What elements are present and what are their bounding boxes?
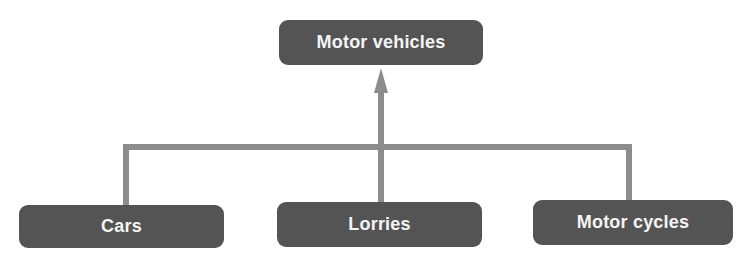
node-cars: Cars — [19, 205, 224, 248]
node-motor-cycles: Motor cycles — [533, 200, 733, 245]
node-label: Motor vehicles — [317, 32, 446, 53]
arrow-up-icon — [374, 68, 388, 93]
connector-lorries — [378, 88, 384, 203]
node-lorries: Lorries — [277, 202, 482, 247]
node-motor-vehicles: Motor vehicles — [279, 20, 483, 65]
horizontal-connector — [123, 144, 632, 150]
node-label: Lorries — [348, 214, 410, 235]
node-label: Motor cycles — [577, 212, 689, 233]
node-label: Cars — [101, 216, 142, 237]
connector-cars — [123, 144, 129, 206]
connector-motor-cycles — [626, 144, 632, 201]
